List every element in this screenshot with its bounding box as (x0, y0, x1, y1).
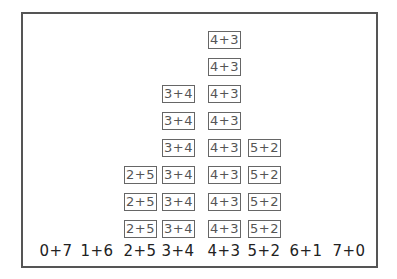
category-label: 6+1 (286, 242, 326, 260)
tally-box: 3+4 (162, 112, 195, 130)
category-label: 3+4 (158, 242, 198, 260)
category-label: 7+0 (329, 242, 369, 260)
tally-box: 4+3 (208, 58, 241, 76)
tally-box: 2+5 (124, 166, 157, 184)
category-label: 2+5 (120, 242, 160, 260)
category-label: 0+7 (36, 242, 76, 260)
tally-box: 2+5 (124, 193, 157, 211)
category-label: 5+2 (244, 242, 284, 260)
category-label: 1+6 (77, 242, 117, 260)
tally-box: 4+3 (208, 85, 241, 103)
tally-box: 5+2 (248, 139, 281, 157)
category-label: 4+3 (204, 242, 244, 260)
tally-box: 4+3 (208, 112, 241, 130)
tally-box: 3+4 (162, 220, 195, 238)
tally-box: 4+3 (208, 220, 241, 238)
chart-frame (21, 12, 378, 268)
tally-box: 3+4 (162, 193, 195, 211)
tally-box: 5+2 (248, 193, 281, 211)
tally-box: 2+5 (124, 220, 157, 238)
tally-box: 3+4 (162, 139, 195, 157)
tally-box: 4+3 (208, 139, 241, 157)
tally-box: 5+2 (248, 220, 281, 238)
tally-box: 3+4 (162, 166, 195, 184)
tally-box: 4+3 (208, 31, 241, 49)
tally-box: 4+3 (208, 166, 241, 184)
tally-box: 4+3 (208, 193, 241, 211)
tally-box: 3+4 (162, 85, 195, 103)
tally-box: 5+2 (248, 166, 281, 184)
